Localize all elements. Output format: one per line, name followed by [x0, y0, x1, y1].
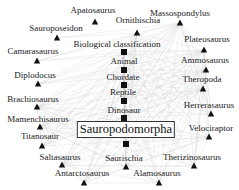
graph-edge: [62, 70, 124, 165]
node-label-ammosaurus: Ammosaurus: [181, 55, 229, 65]
node-label-diplodocus: Diplodocus: [14, 70, 56, 80]
node-label-chordate: Chordate: [107, 72, 140, 82]
center-node-sauropodomorpha: Sauropodomorpha: [77, 121, 175, 138]
node-label-biological-classification: Biological classification: [73, 39, 160, 49]
node-label-reptile: Reptile: [110, 87, 136, 97]
square-node-icon: [121, 49, 127, 55]
node-label-saurischia: Saurischia: [105, 153, 143, 163]
graph-edge: [57, 33, 137, 38]
node-label-sauroposeidon: Sauroposeidon: [29, 23, 83, 33]
node-label-mamenchisaurus: Mamenchisaurus: [7, 114, 68, 124]
node-label-camarasaurus: Camarasaurus: [8, 46, 59, 56]
triangle-node-icon: [54, 35, 60, 41]
square-node-icon: [121, 98, 127, 104]
node-label-saltasaurus: Saltasaurus: [40, 152, 81, 162]
triangle-node-icon: [92, 19, 98, 25]
node-label-animal: Animal: [111, 56, 138, 66]
node-label-apatosaurus: Apatosaurus: [71, 5, 116, 15]
node-label-plateosaurus: Plateosaurus: [184, 34, 230, 44]
node-label-therizinosaurus: Therizinosaurus: [163, 152, 221, 162]
node-label-antarctosaurus: Antarctosaurus: [55, 168, 109, 178]
knowledge-graph-diagram: ApatosaurusOrnithischiaMassospondylusSau…: [0, 0, 239, 190]
node-label-theropoda: Theropoda: [183, 74, 222, 84]
node-label-herrerasaurus: Herrerasaurus: [184, 100, 234, 110]
node-label-titanosaur: Titanosaur: [21, 131, 59, 141]
square-node-icon: [123, 141, 129, 147]
node-label-velociraptor: Velociraptor: [189, 123, 233, 133]
node-label-brachiosaurus: Brachiosaurus: [7, 94, 59, 104]
node-label-alamosaurus: Alamosaurus: [133, 168, 181, 178]
node-label-massospondylus: Massospondylus: [150, 8, 210, 18]
node-label-dinosaur: Dinosaur: [108, 105, 141, 115]
graph-edge: [126, 166, 194, 167]
triangle-node-icon: [177, 20, 183, 26]
